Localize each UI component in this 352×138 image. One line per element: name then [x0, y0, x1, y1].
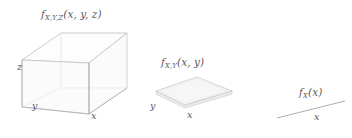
univariate-density-label: fX(x)	[299, 87, 322, 98]
plane-top-face	[156, 77, 232, 105]
bivariate-density-label: fX,Y(x, y)	[161, 57, 204, 68]
univariate-axis-line	[277, 101, 345, 118]
plane-x-axis-label: x	[187, 110, 192, 120]
cube-wireframe	[22, 33, 127, 114]
trivariate-density-args: (x, y, z)	[63, 8, 101, 20]
univariate-density-args: (x)	[308, 86, 322, 98]
line-segment	[277, 101, 345, 118]
plane-slab	[156, 77, 232, 108]
trivariate-density-label: fX,Y,Z(x, y, z)	[41, 9, 102, 20]
line-x-axis-label: x	[314, 112, 319, 122]
cube-z-axis-label: z	[17, 62, 22, 72]
bivariate-density-args: (x, y)	[177, 56, 204, 68]
univariate-density-subscript: X	[303, 92, 308, 100]
cube-y-axis-label: y	[32, 101, 37, 111]
trivariate-density-subscript: X,Y,Z	[45, 14, 63, 22]
bivariate-density-subscript: X,Y	[165, 62, 177, 70]
density-dimensionality-figure: fX,Y,Z(x, y, z) fX,Y(x, y) fX(x) z y x y…	[0, 0, 352, 138]
plane-y-axis-label: y	[150, 101, 155, 111]
cube-x-axis-label: x	[91, 111, 96, 121]
